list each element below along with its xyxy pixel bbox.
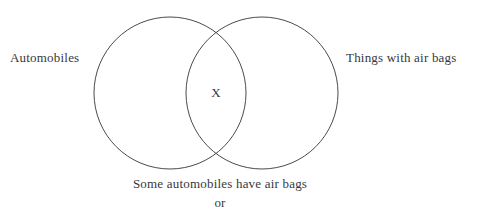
intersection-x-mark: X [0,85,432,100]
set-label-left: Automobiles [10,50,79,66]
caption-line-connector: or [0,193,440,210]
venn-diagram-figure: Automobiles Things with air bags X Some … [0,0,477,210]
set-label-right: Things with air bags [346,50,457,66]
caption-line-primary: Some automobiles have air bags [0,174,440,193]
caption-block: Some automobiles have air bags or [0,174,440,210]
